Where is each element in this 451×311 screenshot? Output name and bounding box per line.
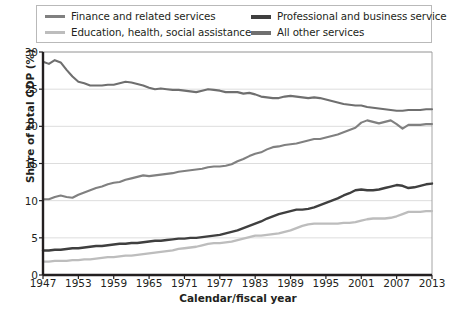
x-tick-label-1983: 1983 bbox=[235, 277, 275, 289]
x-axis-title: Calendar/fiscal year bbox=[43, 292, 433, 304]
x-tick-label-1959: 1959 bbox=[94, 277, 134, 289]
x-tick-label-1977: 1977 bbox=[200, 277, 240, 289]
x-tick-label-2007: 2007 bbox=[377, 277, 417, 289]
x-tick-label-1989: 1989 bbox=[271, 277, 311, 289]
x-tick-label-1953: 1953 bbox=[58, 277, 98, 289]
x-tick-label-1971: 1971 bbox=[164, 277, 204, 289]
x-tick-label-1995: 1995 bbox=[306, 277, 346, 289]
x-tick-label-1947: 1947 bbox=[23, 277, 63, 289]
x-tick-label-2013: 2013 bbox=[412, 277, 451, 289]
x-tick-label-2001: 2001 bbox=[341, 277, 381, 289]
x-tick-label-1965: 1965 bbox=[129, 277, 169, 289]
